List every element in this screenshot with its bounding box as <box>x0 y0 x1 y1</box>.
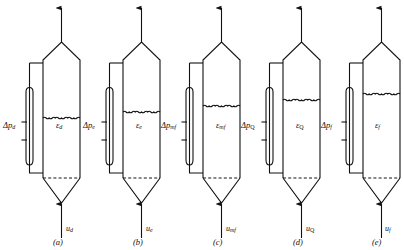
manometer-outer-limb-d <box>270 63 284 173</box>
voidage-label-e: εf <box>375 121 380 130</box>
bottom-cone-a <box>43 178 80 203</box>
panel-label-a: (a) <box>53 238 63 247</box>
pressure-drop-label-a: Δpd <box>3 121 15 130</box>
vessel-assembly-a <box>22 8 81 238</box>
bed-surface-e <box>363 93 400 95</box>
vessel-assembly-c <box>182 8 241 238</box>
fluidized-bed-diagram: Δpd εd ud (a) Δpe εe ue (b) Δpmf εmf umf… <box>0 0 404 250</box>
voidage-label-a: εd <box>56 121 62 130</box>
pressure-drop-label-e: Δpf <box>321 121 332 130</box>
velocity-label-a: ud <box>66 225 73 233</box>
pressure-drop-label-c: Δpmf <box>161 121 176 130</box>
bed-surface-b <box>123 111 160 113</box>
bed-surface-a <box>43 117 80 119</box>
pressure-drop-label-d: ΔpQ <box>241 121 255 130</box>
vessel-wall-d <box>283 42 320 178</box>
vessel-assembly-d <box>262 8 321 238</box>
pressure-drop-label-b: Δpe <box>83 121 95 130</box>
bottom-cone-d <box>283 178 320 203</box>
panel-label-b: (b) <box>133 238 143 247</box>
velocity-label-b: ue <box>146 225 153 233</box>
voidage-label-d: εQ <box>296 121 304 130</box>
bed-surface-c <box>203 105 240 107</box>
velocity-label-c: umf <box>226 225 236 233</box>
bottom-cone-c <box>203 178 240 203</box>
velocity-label-e: uf <box>385 225 391 233</box>
manometer-outer-limb-c <box>190 63 204 173</box>
panel-label-e: (e) <box>372 238 381 247</box>
voidage-label-c: εmf <box>216 121 225 130</box>
vessel-wall-a <box>43 42 80 178</box>
vessel-assembly-e <box>342 8 401 238</box>
voidage-label-b: εe <box>136 121 142 130</box>
panel-label-d: (d) <box>293 238 303 247</box>
manometer-outer-limb-e <box>350 63 364 173</box>
manometer-outer-limb-a <box>30 63 44 173</box>
vessel-assembly-b <box>102 8 161 238</box>
panel-label-c: (c) <box>213 238 222 247</box>
vessel-wall-c <box>203 42 240 178</box>
bottom-cone-b <box>123 178 160 203</box>
vessel-wall-b <box>123 42 160 178</box>
vessel-wall-e <box>363 42 400 178</box>
velocity-label-d: uQ <box>306 225 314 233</box>
bottom-cone-e <box>363 178 400 203</box>
manometer-outer-limb-b <box>110 63 124 173</box>
bed-surface-d <box>283 99 320 101</box>
